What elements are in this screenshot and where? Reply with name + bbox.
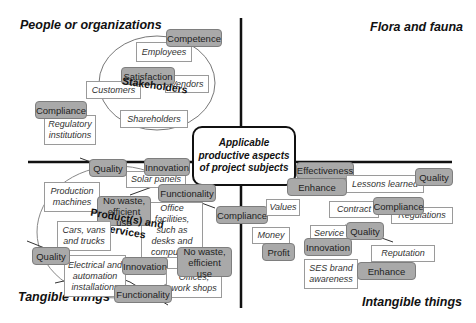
diagram-canvas: People or organizations Flora and fauna …	[0, 0, 476, 323]
subject-lessons-learned: Lessons learned	[346, 175, 424, 193]
subject-money: Money	[252, 227, 290, 244]
aspect-innovation: Innovation	[304, 238, 352, 256]
aspect-profit: Profit	[262, 243, 295, 261]
subject-shareholders: Shareholders	[120, 110, 188, 128]
quadrant-title-flora: Flora and fauna	[370, 20, 463, 34]
subject-contract: Contract	[329, 201, 379, 218]
quadrant-title-people: People or organizations	[20, 18, 162, 32]
aspect-compliance: Compliance	[373, 197, 424, 215]
aspect-compliance: Compliance	[216, 206, 268, 224]
aspect-functionality: Functionality	[114, 285, 172, 303]
aspect-competence: Competence	[166, 29, 222, 47]
aspect-enhance: Enhance	[287, 178, 347, 196]
aspect-compliance: Compliance	[35, 101, 87, 119]
subject-values: Values	[266, 199, 300, 216]
subject-ses-brand-awareness: SES brand awareness	[304, 259, 358, 289]
aspect-innovation: Innovation	[144, 158, 190, 176]
aspect-quality: Quality	[89, 159, 127, 177]
subject-regulatory-institutions: Regulatory institutions	[44, 115, 96, 145]
aspect-enhance: Enhance	[357, 262, 416, 280]
center-label-box: Applicable productive aspects of project…	[192, 126, 296, 186]
aspect-quality: Quality	[415, 168, 453, 186]
aspect-quality: Quality	[32, 247, 70, 265]
aspect-functionality: Functionality	[158, 184, 216, 202]
subject-reputation: Reputation	[371, 245, 435, 262]
aspect-innovation: Innovation	[122, 257, 168, 275]
quadrant-title-intangible: Intangible things	[362, 295, 462, 309]
aspect-quality: Quality	[346, 222, 384, 240]
aspect-no-waste: No waste, efficient use	[177, 247, 232, 277]
